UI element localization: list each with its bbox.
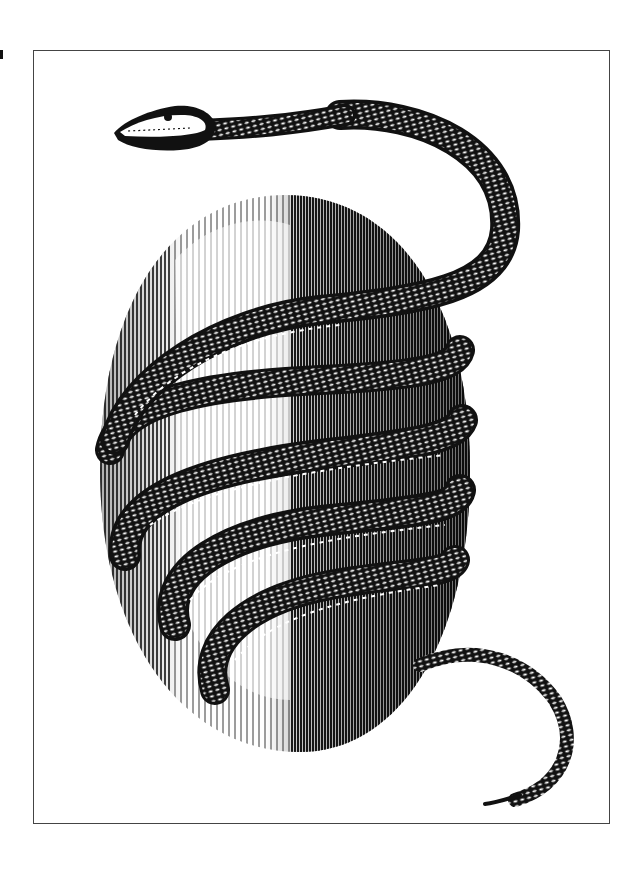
snake-head	[114, 106, 215, 151]
snake-egg-engraving	[0, 0, 641, 871]
snake-tail	[420, 655, 567, 800]
